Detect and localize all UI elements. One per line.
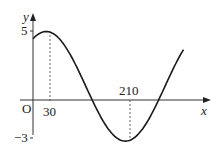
tick-label-30: 30 <box>43 104 56 119</box>
y-axis-arrow-icon <box>30 13 36 21</box>
origin-label: O <box>22 101 31 116</box>
y-axis-label: y <box>21 9 29 24</box>
curve <box>33 32 184 142</box>
tick-label-210: 210 <box>119 83 139 98</box>
x-axis-label: x <box>200 103 207 118</box>
tick-label-neg3: −3 <box>14 130 28 145</box>
graph: y x O 5 −3 30 210 <box>0 0 220 157</box>
tick-label-5: 5 <box>21 23 28 38</box>
